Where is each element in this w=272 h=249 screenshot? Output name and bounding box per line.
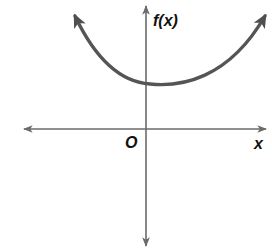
y-axis-label: f(x) <box>153 12 178 29</box>
origin-label: O <box>125 134 138 151</box>
x-axis-label: x <box>253 135 264 152</box>
function-graph: f(x) x O <box>0 0 272 249</box>
